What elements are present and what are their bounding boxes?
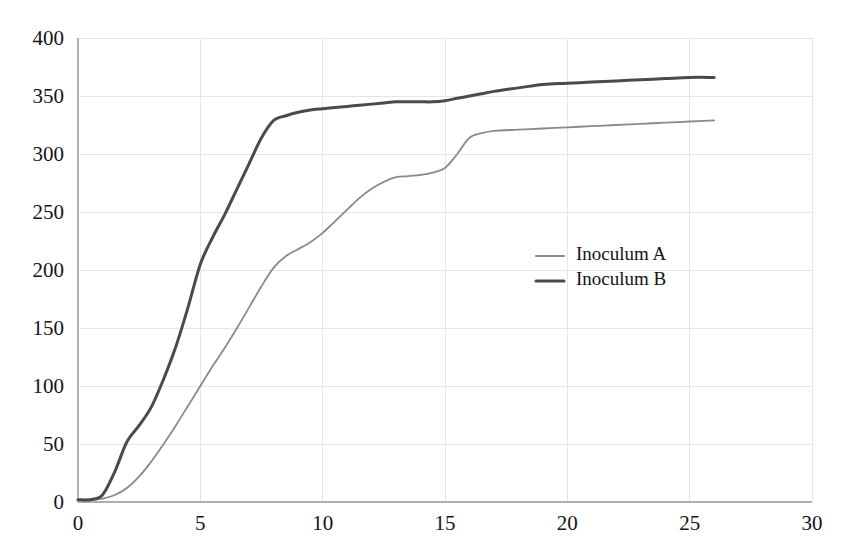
- chart-legend: Inoculum AInoculum B: [536, 243, 667, 289]
- x-tick-label: 15: [435, 511, 456, 535]
- y-tick-label: 0: [54, 490, 65, 514]
- y-tick-label: 300: [33, 142, 65, 166]
- legend-label-inoculum-a: Inoculum A: [576, 243, 667, 264]
- y-tick-label: 350: [33, 84, 65, 108]
- series-line-inoculum-a: [78, 120, 714, 499]
- x-axis-tick-labels: 051015202530: [73, 511, 823, 535]
- x-tick-label: 10: [312, 511, 333, 535]
- y-tick-label: 50: [43, 432, 64, 456]
- chart-container: 050100150200250300350400 051015202530 In…: [0, 0, 853, 553]
- y-tick-label: 200: [33, 258, 65, 282]
- y-axis-tick-labels: 050100150200250300350400: [33, 26, 65, 514]
- x-tick-label: 30: [802, 511, 823, 535]
- x-tick-label: 25: [679, 511, 700, 535]
- y-tick-label: 100: [33, 374, 65, 398]
- x-tick-label: 20: [557, 511, 578, 535]
- x-tick-label: 0: [73, 511, 84, 535]
- y-tick-label: 250: [33, 200, 65, 224]
- line-chart: 050100150200250300350400 051015202530 In…: [0, 0, 853, 553]
- x-tick-label: 5: [195, 511, 206, 535]
- legend-label-inoculum-b: Inoculum B: [576, 268, 666, 289]
- y-tick-label: 150: [33, 316, 65, 340]
- y-tick-label: 400: [33, 26, 65, 50]
